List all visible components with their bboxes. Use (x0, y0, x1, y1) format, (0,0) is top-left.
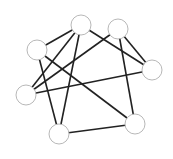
graph-node-C (27, 40, 47, 60)
graph-edge-A-F (59, 25, 81, 134)
graph-node-F (49, 124, 69, 144)
graph-node-D (142, 60, 162, 80)
graph-node-A (71, 15, 91, 35)
graph-edge-F-G (59, 124, 135, 134)
graph-node-G (125, 114, 145, 134)
graph-edge-C-G (37, 50, 135, 124)
graph-node-E (16, 85, 36, 105)
network-graph (0, 0, 173, 159)
graph-node-B (108, 19, 128, 39)
